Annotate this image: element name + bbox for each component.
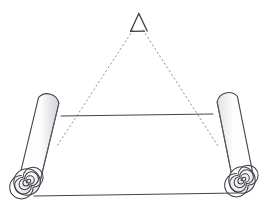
right-roll-end-face	[229, 167, 255, 193]
diagram-canvas	[0, 0, 269, 214]
scroll-diagram-svg	[0, 0, 269, 214]
scroll-sheet-surface	[34, 114, 238, 196]
left-roll-end-face	[14, 169, 40, 195]
